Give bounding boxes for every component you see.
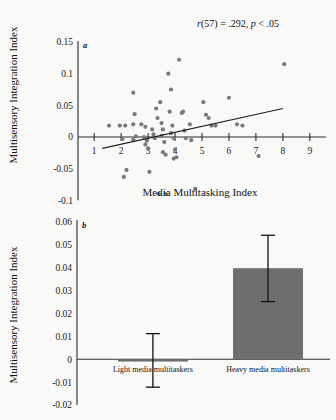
scatter-point xyxy=(169,87,173,91)
scatter-point xyxy=(207,116,211,120)
scatter-point xyxy=(227,96,231,100)
panel-b-y-tick-label: -0.02 xyxy=(52,400,72,410)
scatter-point xyxy=(120,137,124,141)
regression-line xyxy=(102,109,283,149)
panel-a-y-tick-label: -0.1 xyxy=(58,196,73,205)
scatter-point xyxy=(181,110,185,114)
scatter-point xyxy=(143,143,147,147)
scatter-point xyxy=(122,175,126,179)
scatter-point xyxy=(133,112,137,116)
scatter-point xyxy=(189,138,193,142)
panel-a-x-tick-label: 8 xyxy=(280,146,285,156)
scatter-point xyxy=(131,122,135,126)
scatter-point xyxy=(172,156,176,160)
scatter-point xyxy=(131,91,135,95)
scatter-point xyxy=(201,100,205,104)
panel-a-x-tick-label: 2 xyxy=(119,146,124,156)
panel-b-y-tick-label: 0.04 xyxy=(55,263,72,273)
scatter-point xyxy=(257,154,261,158)
panel-b-y-tick-label: 0.05 xyxy=(55,240,72,250)
bar-category-label: Light media multitaskers xyxy=(113,365,193,374)
panel-a-x-tick-label: 6 xyxy=(227,146,232,156)
scatter-point xyxy=(158,100,162,104)
panel-b-letter: b xyxy=(82,220,86,230)
scatter-point xyxy=(184,136,188,140)
panel-a-y-tick-label: -0.05 xyxy=(53,164,73,174)
scatter-point xyxy=(107,124,111,128)
scatter-point xyxy=(155,116,159,120)
panel-a-x-axis-title: Media Multitasking Index xyxy=(143,186,258,198)
scatter-point xyxy=(124,168,128,172)
scatter-point xyxy=(139,122,143,126)
bar-category-label: Heavy media multitaskers xyxy=(226,365,310,374)
panel-a-x-tick-label: 5 xyxy=(200,146,205,156)
scatter-point xyxy=(151,132,155,136)
scatter-point xyxy=(143,125,147,129)
correlation-annotation: r(57) = .292, p < .05 xyxy=(197,18,279,30)
panel-b-y-tick-label: 0.03 xyxy=(55,286,72,296)
panel-b-y-tick-label: 0.06 xyxy=(55,217,72,227)
scatter-point xyxy=(118,124,122,128)
scatter-point xyxy=(161,127,165,131)
panel-a-x-tick-label: 1 xyxy=(92,146,97,156)
scatter-point xyxy=(162,140,166,144)
panel-a-x-tick-label: 9 xyxy=(307,146,312,156)
panel-b-y-tick-label: 0.02 xyxy=(55,309,72,319)
scatter-point xyxy=(164,153,168,157)
scatter-point xyxy=(147,170,151,174)
scatter-point xyxy=(188,122,192,126)
scatter-point xyxy=(166,72,170,76)
scatter-point xyxy=(168,110,172,114)
panel-a-y-tick-label: 0.15 xyxy=(56,37,73,47)
scatter-point xyxy=(123,124,127,128)
figure-container: -0.1-0.0500.050.10.15123456789ar(57) = .… xyxy=(0,0,336,420)
scatter-point xyxy=(154,106,158,110)
panel-b-y-tick-label: 0 xyxy=(67,355,72,365)
panel-b-bar: -0.02-0.0100.010.020.030.040.050.06Light… xyxy=(0,205,336,420)
panel-a-scatter: -0.1-0.0500.050.10.15123456789ar(57) = .… xyxy=(0,0,336,205)
scatter-point xyxy=(240,124,244,128)
panel-a-y-axis-title: Multisensory Integration Index xyxy=(7,26,19,163)
scatter-point xyxy=(172,136,176,140)
panel-b-y-tick-label: -0.01 xyxy=(52,378,72,388)
panel-a-y-tick-label: 0 xyxy=(68,132,73,142)
scatter-point xyxy=(173,148,177,152)
scatter-point xyxy=(146,146,150,150)
panel-a-y-tick-label: 0.05 xyxy=(56,101,73,111)
scatter-point xyxy=(159,121,163,125)
scatter-point xyxy=(150,127,154,131)
panel-a-y-tick-label: 0.1 xyxy=(61,69,73,79)
panel-a-letter: a xyxy=(83,40,88,50)
panel-b-y-tick-label: 0.01 xyxy=(55,332,72,342)
scatter-point xyxy=(235,122,239,126)
scatter-point xyxy=(170,124,174,128)
panel-b-y-axis-title: Multisensory Integration Index xyxy=(7,246,19,383)
scatter-point xyxy=(282,62,286,66)
scatter-point xyxy=(177,58,181,62)
